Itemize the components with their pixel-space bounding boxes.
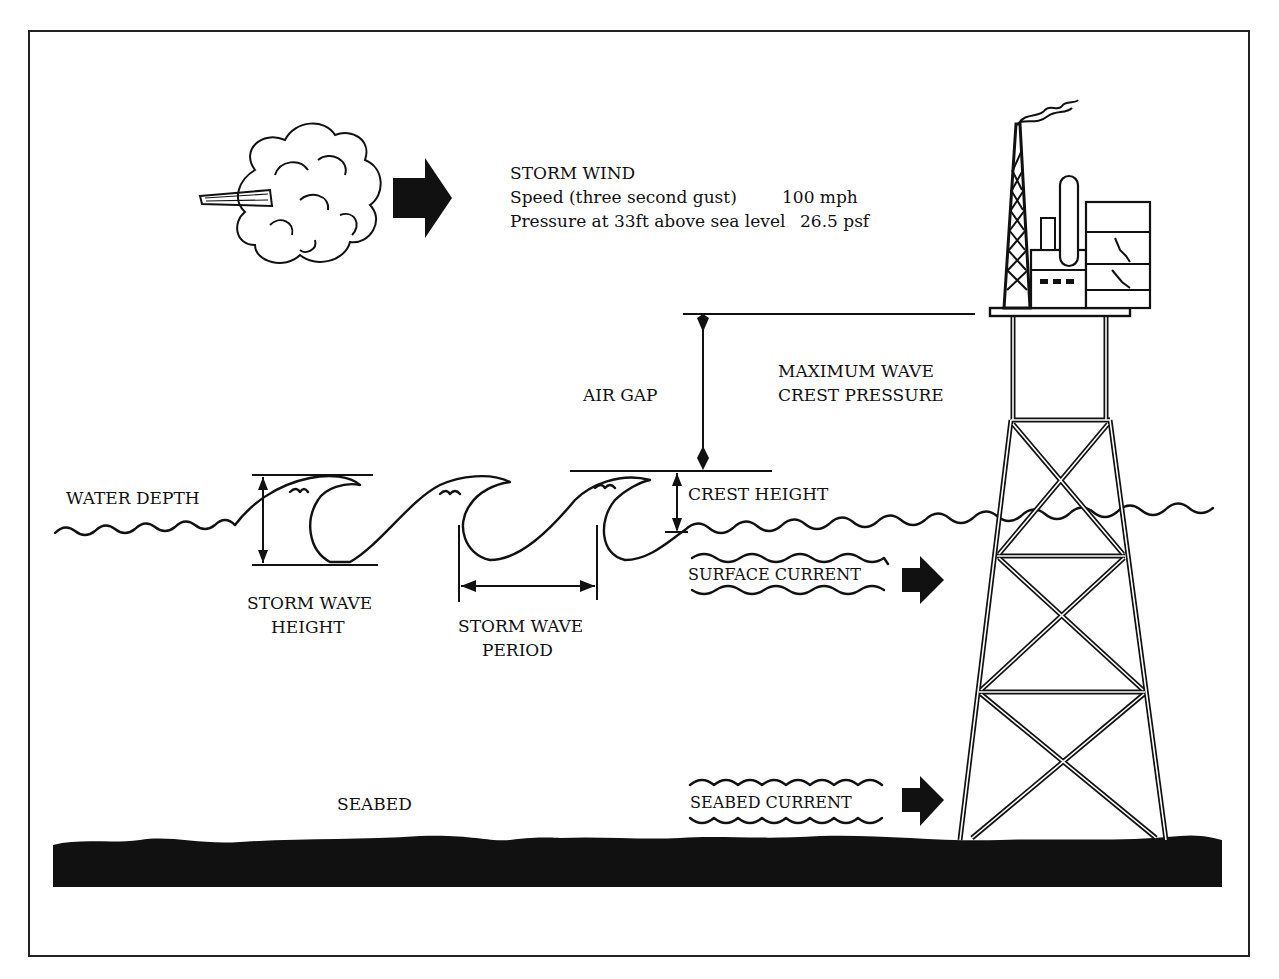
storm-cloud-icon bbox=[200, 124, 381, 263]
diagram-frame bbox=[29, 31, 1249, 956]
storm-wind-pressure-value: 26.5 psf bbox=[800, 211, 871, 231]
seabed-label: SEABED bbox=[337, 794, 412, 814]
water-surface-right bbox=[685, 503, 1213, 533]
storm-wind-speed-value: 100 mph bbox=[782, 187, 858, 207]
air-gap-label: AIR GAP bbox=[582, 385, 658, 405]
max-wave-crest-pressure-label-1: MAXIMUM WAVE bbox=[778, 361, 934, 381]
seabed-current-arrow-icon bbox=[902, 776, 944, 826]
seabed-current-label: SEABED CURRENT bbox=[690, 793, 852, 812]
crest-height-label: CREST HEIGHT bbox=[688, 484, 829, 504]
storm-wave-period-label-2: PERIOD bbox=[482, 640, 553, 660]
surface-current-label: SURFACE CURRENT bbox=[688, 565, 861, 584]
storm-wave-height-label-1: STORM WAVE bbox=[247, 593, 372, 613]
max-wave-crest-pressure-label-2: CREST PRESSURE bbox=[778, 385, 944, 405]
offshore-platform-icon bbox=[960, 100, 1166, 840]
storm-wave-period-label-1: STORM WAVE bbox=[458, 616, 583, 636]
storm-wave-height-label-2: HEIGHT bbox=[271, 617, 345, 637]
storm-wind-speed-label: Speed (three second gust) bbox=[510, 187, 737, 207]
storm-wind-pressure-label: Pressure at 33ft above sea level bbox=[510, 211, 785, 231]
offshore-platform-loads-diagram: STORM WIND Speed (three second gust) 100… bbox=[0, 0, 1279, 979]
water-depth-label: WATER DEPTH bbox=[66, 488, 200, 508]
seabed-ground bbox=[53, 835, 1222, 887]
surface-current-arrow-icon bbox=[902, 556, 944, 604]
storm-wind-title: STORM WIND bbox=[510, 163, 635, 183]
wind-arrow-icon bbox=[393, 158, 452, 238]
water-surface-left bbox=[55, 520, 235, 535]
